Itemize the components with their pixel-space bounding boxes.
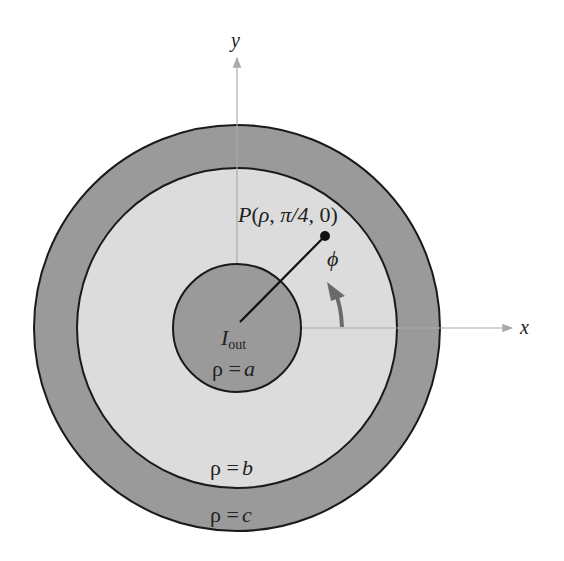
coax-diagram: y x P(ρ, π/4, 0) ϕ Iout ρ =a ρ =b ρ =c xyxy=(0,0,564,561)
rho-a-eq: = xyxy=(223,356,241,381)
point-rho: ρ xyxy=(258,202,270,227)
rho-a-name: a xyxy=(244,356,255,381)
rho-a-symbol: ρ xyxy=(212,356,223,381)
current-subscript: out xyxy=(228,337,246,352)
point-close: ) xyxy=(330,202,337,227)
point-sep2: , xyxy=(308,202,319,227)
rho-b-symbol: ρ xyxy=(210,455,221,480)
rho-c-symbol: ρ xyxy=(210,502,221,527)
rho-b-name: b xyxy=(242,455,253,480)
rho-b-eq: = xyxy=(221,455,239,480)
point-z: 0 xyxy=(319,202,330,227)
point-open: ( xyxy=(251,202,258,227)
rho-c-eq: = xyxy=(221,502,239,527)
point-p-label: P(ρ, π/4, 0) xyxy=(237,202,338,227)
point-phi: π/4 xyxy=(280,202,308,227)
point-p-marker xyxy=(320,231,330,241)
rho-b-label: ρ =b xyxy=(210,455,253,480)
point-sep1: , xyxy=(269,202,280,227)
phi-label: ϕ xyxy=(327,246,338,271)
x-axis-label: x xyxy=(519,316,529,338)
rho-c-name: c xyxy=(242,502,252,527)
rho-a-label: ρ =a xyxy=(212,356,255,381)
y-axis-label: y xyxy=(229,29,240,52)
rho-c-label: ρ =c xyxy=(210,502,252,527)
